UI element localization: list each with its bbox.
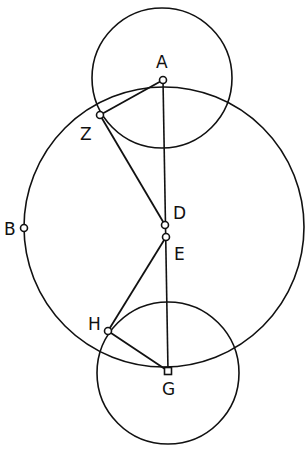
label-A: A [156, 52, 168, 72]
label-D: D [173, 203, 186, 223]
segment-Z-D [100, 115, 165, 225]
label-H: H [88, 314, 101, 334]
point-D [162, 222, 169, 229]
label-E: E [174, 244, 185, 264]
geometry-diagram: A Z B D E H G [0, 0, 305, 455]
label-Z: Z [80, 124, 92, 144]
point-B [21, 225, 28, 232]
point-E [163, 234, 170, 241]
point-H [105, 328, 112, 335]
point-A [160, 77, 167, 84]
diagram-canvas: A Z B D E H G [0, 0, 305, 455]
point-G [165, 368, 172, 375]
label-G: G [162, 379, 175, 399]
label-B: B [4, 219, 16, 239]
point-Z [97, 112, 104, 119]
segment-E-H [108, 237, 166, 331]
